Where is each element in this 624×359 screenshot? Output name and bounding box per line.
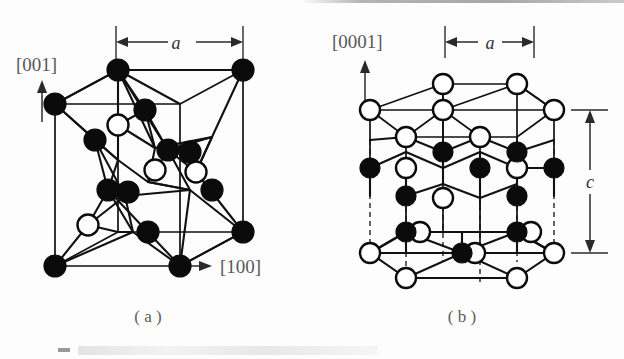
open-circle-atom xyxy=(396,268,416,288)
filled-circle-atom xyxy=(169,255,191,277)
open-circle-atom xyxy=(470,127,490,147)
open-circle-atom xyxy=(360,100,380,120)
filled-circle-atom xyxy=(396,186,416,206)
open-circle-atom xyxy=(108,115,129,136)
panel-b-caption: ( b ) xyxy=(448,307,476,326)
open-circle-atom xyxy=(433,188,453,208)
filled-circle-atom xyxy=(452,243,472,263)
filled-circle-atom xyxy=(117,181,139,203)
open-circle-atom xyxy=(360,243,380,263)
filled-circle-atom xyxy=(179,141,201,163)
open-circle-atom xyxy=(544,100,564,120)
filled-circle-atom xyxy=(157,139,179,161)
caption-text-cropped xyxy=(78,346,378,355)
filled-circle-atom xyxy=(360,158,380,178)
panel-a-caption: ( a ) xyxy=(134,307,161,326)
open-circle-atom xyxy=(433,74,453,94)
filled-circle-atom xyxy=(232,59,254,81)
direction-text-0001: [0001] xyxy=(332,31,383,52)
direction-text-001: [001] xyxy=(16,54,57,75)
open-circle-atom xyxy=(507,74,527,94)
open-circle-atom xyxy=(186,162,207,183)
filled-circle-atom xyxy=(433,142,453,162)
open-circle-atom xyxy=(544,243,564,263)
filled-circle-atom xyxy=(396,222,416,242)
figure-page: a [001] [100] xyxy=(0,0,624,359)
open-circle-atom xyxy=(396,158,416,178)
open-circle-atom xyxy=(433,100,453,120)
direction-label-0001: [0001] xyxy=(332,31,383,103)
filled-circle-atom xyxy=(84,129,106,151)
panel-a-zincblende: a [001] [100] xyxy=(0,0,312,359)
filled-circle-atom xyxy=(507,222,527,242)
dimension-label-c: c xyxy=(586,172,594,192)
filled-circle-atom xyxy=(134,99,156,121)
dimension-a-marker-panel-a: a xyxy=(116,26,243,62)
direction-text-100: [100] xyxy=(220,256,261,277)
filled-circle-atom xyxy=(44,93,66,115)
filled-circle-atom xyxy=(232,221,254,243)
dimension-label-a: a xyxy=(486,33,495,53)
filled-circle-atom xyxy=(507,142,527,162)
filled-circle-atom xyxy=(544,158,564,178)
filled-circle-atom xyxy=(470,158,490,178)
dimension-c-marker-panel-b: c xyxy=(571,110,608,253)
filled-circle-atom xyxy=(44,255,66,277)
caption-marker-block xyxy=(58,348,70,352)
open-circle-atom xyxy=(145,160,166,181)
open-circle-atom xyxy=(396,127,416,147)
open-circle-atom xyxy=(78,215,99,236)
dimension-label-a: a xyxy=(172,33,181,53)
filled-circle-atom xyxy=(137,221,159,243)
open-circle-atom xyxy=(507,268,527,288)
filled-circle-atom xyxy=(201,179,223,201)
panel-b-wurtzite: a [0001] c xyxy=(312,0,624,359)
top-layer-frame xyxy=(370,84,554,137)
filled-circle-atom xyxy=(97,179,119,201)
filled-circle-atom xyxy=(107,59,129,81)
dimension-a-marker-panel-b: a xyxy=(445,26,534,58)
filled-circle-atom xyxy=(507,186,527,206)
